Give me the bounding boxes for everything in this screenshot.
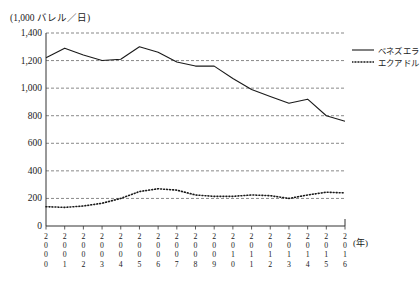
x-axis-tick-label: 2014 [306, 232, 310, 269]
x-axis-ticks [46, 226, 345, 230]
x-axis-tick-label: 2007 [175, 232, 179, 269]
x-axis-tick-label: 2012 [268, 232, 272, 269]
axis-lines [46, 33, 345, 226]
x-axis-tick-label: 2010 [231, 232, 235, 269]
x-axis-label: (年) [353, 236, 368, 249]
x-axis-tick-label: 2011 [250, 232, 254, 269]
x-axis-tick-label: 2009 [212, 232, 216, 269]
legend-swatch-dotted-icon [352, 58, 374, 66]
chart-legend: ベネズエラエクアドル [352, 44, 419, 68]
series-line-1 [46, 47, 345, 121]
x-axis-tick-label: 2001 [63, 232, 67, 269]
oil-production-line-chart: (1,000 バレル／日) 02004006008001,0001,2001,4… [0, 0, 420, 283]
x-axis-tick-label: 2015 [324, 232, 328, 269]
x-axis-tick-label: 2006 [156, 232, 160, 269]
legend-label: エクアドル [378, 56, 419, 68]
legend-item: エクアドル [352, 56, 419, 68]
x-axis-tick-label: 2000 [44, 232, 48, 269]
legend-label: ベネズエラ [378, 44, 419, 56]
x-axis-tick-label: 2016 [343, 232, 347, 269]
x-axis-tick-label: 2013 [287, 232, 291, 269]
x-axis-tick-label: 2002 [81, 232, 85, 269]
legend-swatch-solid-icon [352, 46, 374, 54]
x-axis-tick-label: 2005 [137, 232, 141, 269]
x-axis-tick-label: 2008 [194, 232, 198, 269]
series-line-2 [46, 189, 345, 208]
x-axis-tick-label: 2003 [100, 232, 104, 269]
legend-item: ベネズエラ [352, 44, 419, 56]
x-axis-tick-label: 2004 [119, 232, 123, 269]
data-series [46, 47, 345, 208]
